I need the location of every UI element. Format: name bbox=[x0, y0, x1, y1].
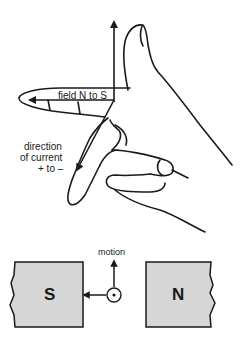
north-pole-label: N bbox=[172, 285, 184, 305]
conductor-out-of-page-icon bbox=[107, 288, 121, 302]
right-hand-rule-diagram: field N to S direction of current + to –… bbox=[0, 0, 247, 342]
hand-illustration bbox=[19, 25, 232, 232]
motion-label: motion bbox=[98, 247, 125, 258]
current-label-line3: + to – bbox=[38, 163, 63, 174]
current-arrow bbox=[78, 100, 114, 168]
south-pole-label: S bbox=[44, 285, 55, 305]
field-label: field N to S bbox=[58, 90, 107, 101]
current-label-line1: direction bbox=[24, 141, 62, 152]
current-label-line2: of current bbox=[20, 152, 62, 163]
